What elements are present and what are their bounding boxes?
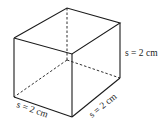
front-width-label: s = 2 cm <box>15 99 50 119</box>
cube-diagram: s = 2 cm s = 2 cm s = 2 cm <box>0 0 166 127</box>
hidden-edge-right <box>67 60 120 78</box>
height-label: s = 2 cm <box>125 48 158 58</box>
hidden-edge-left <box>14 60 67 97</box>
depth-label: s = 2 cm <box>87 91 119 120</box>
